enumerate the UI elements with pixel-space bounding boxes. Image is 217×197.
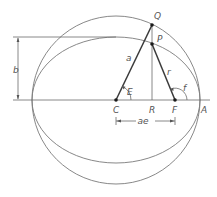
point-P [150,42,154,46]
orbit-geometry-diagram: b E f ae Q P a r C R F A [0,0,217,197]
radius-a-line [116,25,152,100]
arrow-left-icon [117,120,122,123]
label-f: f [183,83,188,93]
label-P: P [157,34,163,44]
arrow-down-icon [17,95,20,100]
arrow-right-icon [170,120,175,123]
label-F: F [172,105,178,115]
label-E: E [127,87,133,97]
point-F [173,98,177,102]
label-C: C [113,105,120,115]
label-R: R [149,105,155,115]
label-b: b [13,65,19,75]
label-ae: ae [138,116,150,126]
label-A: A [200,105,207,115]
point-C [114,98,118,102]
point-Q [150,23,154,27]
label-Q: Q [154,11,161,21]
label-r: r [167,67,172,77]
label-a: a [126,53,132,63]
arrow-up-icon [17,38,20,43]
